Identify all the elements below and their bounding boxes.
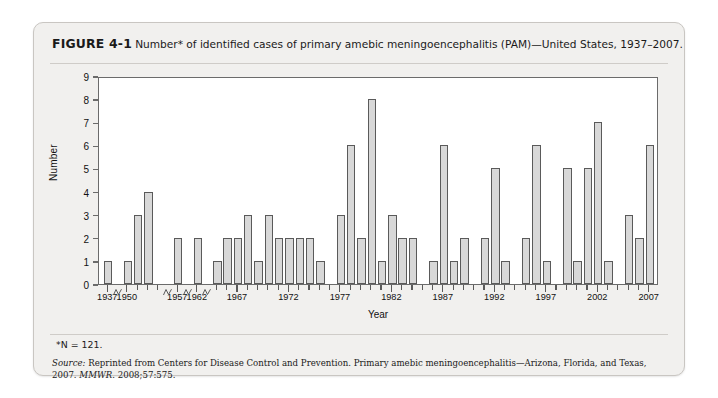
bar	[254, 261, 262, 284]
bar	[532, 145, 540, 284]
x-tick-mark	[319, 285, 320, 290]
bar	[316, 261, 324, 284]
x-tick-mark	[107, 285, 108, 292]
bar	[213, 261, 221, 284]
x-tick-mark	[453, 285, 454, 290]
x-tick-mark	[494, 285, 495, 292]
x-axis-break-icon	[113, 282, 122, 290]
bar	[522, 238, 530, 284]
x-tick-mark	[298, 285, 299, 290]
y-tick-label: 3	[63, 210, 89, 221]
x-tick-mark	[566, 285, 567, 290]
bar	[491, 168, 499, 284]
x-tick-mark	[370, 285, 371, 290]
y-tick-label: 0	[63, 280, 89, 291]
x-tick-mark	[586, 285, 587, 290]
figure-card: FIGURE 4-1 Number* of identified cases o…	[33, 22, 685, 376]
x-tick-label: 1992	[484, 292, 504, 302]
x-tick-mark	[391, 285, 392, 292]
y-tick-label: 6	[63, 141, 89, 152]
y-tick-label: 9	[63, 72, 89, 83]
x-tick-mark	[329, 285, 330, 290]
source-citation: 2008;57:575.	[115, 370, 175, 380]
x-tick-mark	[432, 285, 433, 290]
chart-plot-area: Number 0123456789 1937195019571962196719…	[50, 71, 670, 329]
x-tick-label: 1972	[278, 292, 298, 302]
x-tick-mark	[525, 285, 526, 290]
source-label: Source:	[52, 358, 86, 368]
y-axis: 0123456789	[50, 77, 98, 285]
bar	[174, 238, 182, 284]
x-tick-mark	[339, 285, 340, 292]
plot-frame	[98, 77, 658, 285]
bar	[481, 238, 489, 284]
x-tick-mark	[267, 285, 268, 290]
bar	[337, 215, 345, 284]
x-tick-mark	[278, 285, 279, 290]
x-tick-mark	[535, 285, 536, 290]
x-tick-mark	[226, 285, 227, 290]
bar	[306, 238, 314, 284]
y-tick-label: 4	[63, 187, 89, 198]
bar	[450, 261, 458, 284]
x-tick-label: 2002	[587, 292, 607, 302]
x-tick-mark	[308, 285, 309, 290]
x-tick-mark	[126, 285, 127, 292]
x-tick-mark	[514, 285, 515, 290]
bar	[584, 168, 592, 284]
x-tick-mark	[422, 285, 423, 290]
x-tick-mark	[236, 285, 237, 292]
x-tick-mark	[380, 285, 381, 290]
bar	[409, 238, 417, 284]
bar	[429, 261, 437, 284]
x-tick-mark	[157, 285, 158, 290]
bar	[285, 238, 293, 284]
x-tick-mark	[607, 285, 608, 290]
x-tick-mark	[216, 285, 217, 290]
figure-footnote: *N = 121.	[56, 339, 102, 350]
x-tick-mark	[137, 285, 138, 290]
x-tick-mark	[628, 285, 629, 290]
bar	[124, 261, 132, 284]
x-tick-mark	[617, 285, 618, 290]
figure-number: FIGURE 4-1	[52, 36, 132, 51]
bar	[594, 122, 602, 284]
bar	[144, 192, 152, 284]
x-tick-mark	[247, 285, 248, 290]
x-tick-mark	[473, 285, 474, 290]
x-tick-label: 1967	[227, 292, 247, 302]
x-tick-mark	[504, 285, 505, 290]
bar	[134, 215, 142, 284]
x-tick-mark	[350, 285, 351, 290]
y-tick-label: 7	[63, 118, 89, 129]
x-axis-break-icon	[183, 282, 192, 290]
source-journal: MMWR.	[79, 370, 115, 380]
y-tick-label: 8	[63, 95, 89, 106]
x-tick-mark	[463, 285, 464, 290]
bar	[104, 261, 112, 284]
bar	[234, 238, 242, 284]
bar	[194, 238, 202, 284]
x-tick-mark	[597, 285, 598, 292]
caption-divider	[50, 63, 668, 64]
y-tick-label: 2	[63, 233, 89, 244]
x-tick-mark	[638, 285, 639, 290]
x-tick-mark	[147, 285, 148, 290]
figure-caption-text: Number* of identified cases of primary a…	[135, 38, 683, 50]
bar	[573, 261, 581, 284]
source-divider	[50, 334, 668, 335]
x-tick-mark	[648, 285, 649, 292]
bar	[646, 145, 654, 284]
bar-series	[99, 78, 657, 284]
x-tick-mark	[360, 285, 361, 290]
bar	[398, 238, 406, 284]
x-tick-label: 1977	[330, 292, 350, 302]
x-tick-label: 1982	[381, 292, 401, 302]
y-tick-label: 5	[63, 164, 89, 175]
bar	[604, 261, 612, 284]
x-axis-break-icon	[163, 282, 172, 290]
x-tick-label: 2007	[639, 292, 659, 302]
x-tick-mark	[442, 285, 443, 292]
bar	[347, 145, 355, 284]
figure-caption: FIGURE 4-1 Number* of identified cases o…	[52, 36, 670, 52]
